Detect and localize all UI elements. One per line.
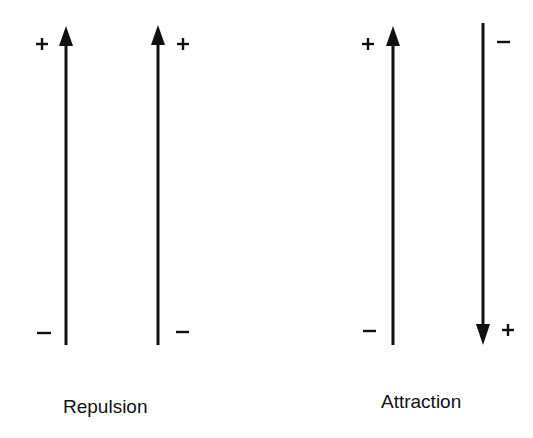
arrow-repulsion-left-up: [59, 26, 73, 345]
caption-attraction: Attraction: [381, 391, 461, 413]
arrow-repulsion-right-up: [151, 25, 165, 345]
plus-sign-attraction-left-top: [362, 38, 374, 50]
plus-sign-attraction-right-bottom: [502, 324, 514, 336]
plus-sign-repulsion-right-top: [177, 38, 189, 50]
arrow-attraction-right-down: [476, 23, 490, 345]
arrow-attraction-left-up: [386, 26, 400, 345]
plus-sign-repulsion-left-top: [36, 38, 48, 50]
diagram-canvas: [0, 0, 533, 438]
caption-repulsion: Repulsion: [63, 396, 148, 418]
